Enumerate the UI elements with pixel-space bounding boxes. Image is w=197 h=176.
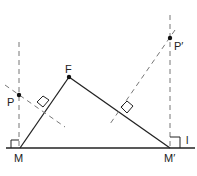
reflection-diagram: F P P′ M M′ l xyxy=(0,0,197,176)
label-M-prime: M′ xyxy=(164,152,175,164)
label-P: P xyxy=(7,96,14,108)
right-angle-marker-M-prime xyxy=(170,137,180,148)
label-F: F xyxy=(65,63,72,75)
right-angle-marker-M xyxy=(11,140,19,148)
segment-FM-prime xyxy=(69,77,170,148)
right-angle-marker-MF xyxy=(37,96,49,107)
point-F xyxy=(67,75,71,79)
label-M: M xyxy=(14,152,23,164)
perpendicular-to-FM-prime xyxy=(110,30,175,124)
label-line-l: l xyxy=(186,134,188,146)
right-angle-marker-FM-prime xyxy=(121,101,133,113)
label-P-prime: P′ xyxy=(174,40,183,52)
point-P-prime xyxy=(168,36,172,40)
point-P xyxy=(17,93,21,97)
